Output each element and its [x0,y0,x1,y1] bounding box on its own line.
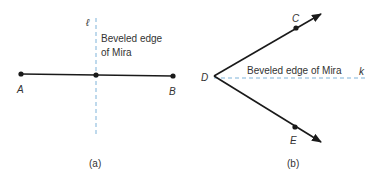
figure-b: C D E Beveled edge of Mira k (b) [201,13,365,169]
point-c-label: C [292,13,300,24]
line-k-label: k [359,66,365,77]
caption-a: (a) [89,158,101,169]
point-b-label: B [169,86,176,97]
caption-b: (b) [287,158,299,169]
point-a-label: A [16,84,24,95]
point-a-dot [18,71,23,76]
edge-label-line1: Beveled edge [101,33,163,44]
edge-label-b: Beveled edge of Mira [247,65,342,76]
point-c-dot [293,25,298,30]
point-d-label: D [201,72,208,83]
point-e-label: E [290,135,297,146]
line-l-label: ℓ [85,17,90,28]
ray-de [214,76,321,142]
midpoint-dot [93,72,98,77]
point-e-dot [292,124,297,129]
edge-label-line2: of Mira [101,47,132,58]
mira-diagram: ℓ Beveled edge of Mira A B (a) C D E Bev… [0,0,384,181]
figure-a: ℓ Beveled edge of Mira A B (a) [16,17,176,169]
point-b-dot [170,73,175,78]
